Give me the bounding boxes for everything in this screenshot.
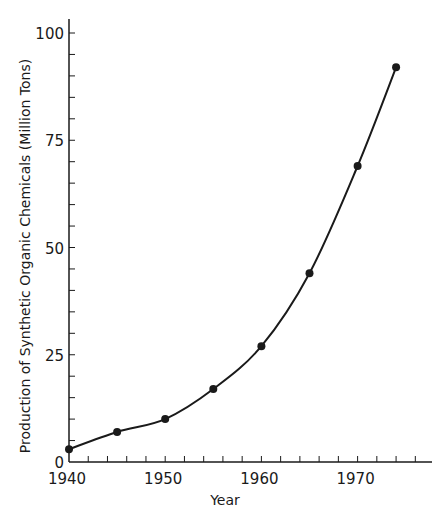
ticks — [69, 33, 415, 462]
y-tick-label: 100 — [35, 25, 64, 43]
data-point-marker — [161, 415, 169, 423]
x-axis-title: Year — [209, 492, 240, 508]
x-tick-label: 1970 — [337, 470, 375, 488]
y-tick-label: 75 — [45, 132, 64, 150]
chart-canvas: 02550751001940195019601970 Year Producti… — [0, 0, 444, 523]
y-tick-label: 50 — [45, 240, 64, 258]
x-tick-label: 1940 — [48, 470, 86, 488]
data-point-marker — [306, 269, 314, 277]
data-point-marker — [113, 428, 121, 436]
data-point-marker — [354, 162, 362, 170]
data-line — [69, 67, 396, 449]
y-axis-title: Production of Synthetic Organic Chemical… — [17, 59, 33, 453]
data-point-marker — [65, 445, 73, 453]
data-point-marker — [257, 342, 265, 350]
data-point-marker — [209, 385, 217, 393]
axes — [69, 19, 432, 462]
x-tick-label: 1950 — [144, 470, 182, 488]
data-points — [65, 63, 400, 453]
y-tick-label: 25 — [45, 347, 64, 365]
data-point-marker — [392, 63, 400, 71]
tick-labels: 02550751001940195019601970 — [35, 25, 374, 488]
x-tick-label: 1960 — [240, 470, 278, 488]
